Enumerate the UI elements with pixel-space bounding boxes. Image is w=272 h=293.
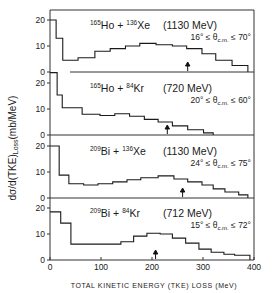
- y-axis-label-subscript: Loss: [12, 139, 19, 154]
- y-tick-label: 10: [36, 41, 46, 51]
- projectile-mass: 136: [126, 19, 137, 26]
- y-tick-label: 20: [36, 78, 46, 88]
- target-symbol: Ho: [101, 82, 115, 94]
- panel-3: 01020209Bi + 136Xe(1130 MeV)24° ≤ θc.m. …: [36, 141, 254, 203]
- y-axis-label-units: (mb/MeV): [7, 96, 18, 140]
- angle-high: ≤ 72°: [229, 220, 251, 230]
- projectile-symbol: Xe: [137, 19, 150, 31]
- plus-sign: +: [110, 207, 122, 219]
- x-tick-label: 300: [196, 262, 210, 272]
- panels: 01020165Ho + 136Xe(1130 MeV)16° ≤ θc.m. …: [36, 15, 254, 265]
- y-tick-label: 10: [36, 167, 46, 177]
- target-symbol: Ho: [101, 19, 115, 31]
- angle-range-label: 24° ≤ θc.m. ≤ 75°: [190, 158, 251, 169]
- y-tick-label: 20: [36, 203, 46, 213]
- arrow-up-icon: [165, 125, 169, 129]
- projectile-symbol: Kr: [134, 82, 145, 94]
- x-axis-label: TOTAL KINETIC ENERGY (TKE) LOSS (MeV): [71, 282, 238, 290]
- histogram-step-line: [50, 212, 250, 260]
- projectile-symbol: Xe: [133, 145, 146, 157]
- angle-low: 20° ≤: [190, 95, 212, 105]
- panel-4: 01020209Bi + 84Kr(712 MeV)15° ≤ θc.m. ≤ …: [36, 203, 254, 265]
- arrow-up-icon: [186, 62, 190, 66]
- y-axis-label: dσ/d(TKE)Loss(mb/MeV): [7, 96, 19, 201]
- reaction-label: 209Bi + 84Kr: [90, 207, 140, 219]
- beam-energy-label: (1130 MeV): [163, 19, 217, 31]
- x-axis: 0100200300400: [48, 257, 262, 272]
- theta-subscript: c.m.: [217, 100, 229, 106]
- angle-high: ≤ 75°: [229, 158, 251, 168]
- reaction-label: 165Ho + 136Xe: [90, 19, 150, 31]
- plus-sign: +: [110, 145, 122, 157]
- arrow-up-icon: [180, 188, 184, 192]
- theta-subscript: c.m.: [217, 37, 229, 43]
- theta-subscript: c.m.: [217, 163, 229, 169]
- y-tick-label: 0: [40, 255, 45, 265]
- y-axis-label-main: dσ/d(TKE): [7, 154, 18, 200]
- arrow-up-icon: [153, 250, 157, 254]
- target-mass: 165: [90, 19, 101, 26]
- y-tick-label: 0: [40, 193, 45, 203]
- y-tick-label: 20: [36, 15, 46, 25]
- plus-sign: +: [114, 82, 126, 94]
- angle-high: ≤ 70°: [229, 32, 251, 42]
- target-symbol: Bi: [101, 145, 110, 157]
- target-mass: 209: [90, 145, 101, 152]
- angle-high: ≤ 60°: [229, 95, 251, 105]
- beam-energy-label: (1130 MeV): [163, 145, 217, 157]
- angle-range-label: 20° ≤ θc.m. ≤ 60°: [190, 95, 251, 106]
- target-mass: 165: [90, 82, 101, 89]
- beam-energy-label: (712 MeV): [163, 207, 212, 219]
- projectile-symbol: Kr: [129, 207, 140, 219]
- angle-range-label: 15° ≤ θc.m. ≤ 72°: [190, 220, 251, 231]
- panel-2: 01020165Ho + 84Kr(720 MeV)20° ≤ θc.m. ≤ …: [36, 73, 254, 140]
- theta-subscript: c.m.: [217, 225, 229, 231]
- histogram-step-line: [50, 146, 248, 198]
- x-tick-label: 200: [145, 262, 159, 272]
- target-mass: 209: [90, 207, 101, 214]
- projectile-mass: 136: [122, 145, 133, 152]
- reaction-label: 165Ho + 84Kr: [90, 82, 145, 94]
- plus-sign: +: [114, 19, 126, 31]
- y-tick-label: 0: [40, 67, 45, 77]
- beam-energy-label: (720 MeV): [163, 82, 212, 94]
- angle-low: 16° ≤: [190, 32, 212, 42]
- target-symbol: Bi: [101, 207, 110, 219]
- y-tick-label: 0: [40, 130, 45, 140]
- x-tick-label: 400: [247, 262, 261, 272]
- angle-low: 24° ≤: [190, 158, 212, 168]
- panel-1: 01020165Ho + 136Xe(1130 MeV)16° ≤ θc.m. …: [36, 15, 254, 77]
- chart-figure: 01020165Ho + 136Xe(1130 MeV)16° ≤ θc.m. …: [0, 0, 272, 293]
- reaction-label: 209Bi + 136Xe: [90, 145, 146, 157]
- y-tick-label: 10: [36, 229, 46, 239]
- y-tick-label: 10: [36, 104, 46, 114]
- angle-range-label: 16° ≤ θc.m. ≤ 70°: [190, 32, 251, 43]
- angle-low: 15° ≤: [190, 220, 212, 230]
- x-tick-label: 100: [94, 262, 108, 272]
- x-tick-label: 0: [48, 262, 53, 272]
- y-tick-label: 20: [36, 141, 46, 151]
